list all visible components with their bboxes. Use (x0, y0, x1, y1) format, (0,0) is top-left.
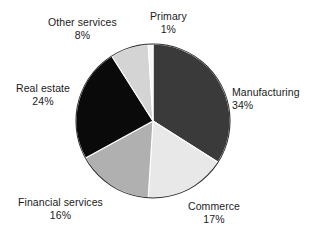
pie-label-name-other-services: Other services (48, 16, 117, 29)
pie-label-primary: Primary1% (150, 10, 187, 35)
pie-label-name-primary: Primary (150, 10, 187, 23)
pie-label-value-manufacturing: 34% (232, 99, 300, 112)
pie-label-financial-services: Financial services16% (18, 196, 103, 221)
pie-label-value-financial-services: 16% (18, 209, 103, 222)
pie-label-value-commerce: 17% (188, 213, 240, 226)
pie-label-value-primary: 1% (150, 23, 187, 36)
pie-slices-group (76, 44, 230, 198)
pie-label-commerce: Commerce17% (188, 200, 240, 225)
pie-label-name-manufacturing: Manufacturing (232, 86, 300, 99)
pie-label-other-services: Other services8% (48, 16, 117, 41)
pie-label-real-estate: Real estate24% (16, 82, 70, 107)
pie-label-value-other-services: 8% (48, 29, 117, 42)
pie-label-name-commerce: Commerce (188, 200, 240, 213)
pie-label-name-real-estate: Real estate (16, 82, 70, 95)
pie-label-name-financial-services: Financial services (18, 196, 103, 209)
pie-label-manufacturing: Manufacturing34% (232, 86, 300, 111)
pie-label-value-real-estate: 24% (16, 95, 70, 108)
pie-chart-figure: Manufacturing34%Commerce17%Financial ser… (0, 0, 323, 232)
